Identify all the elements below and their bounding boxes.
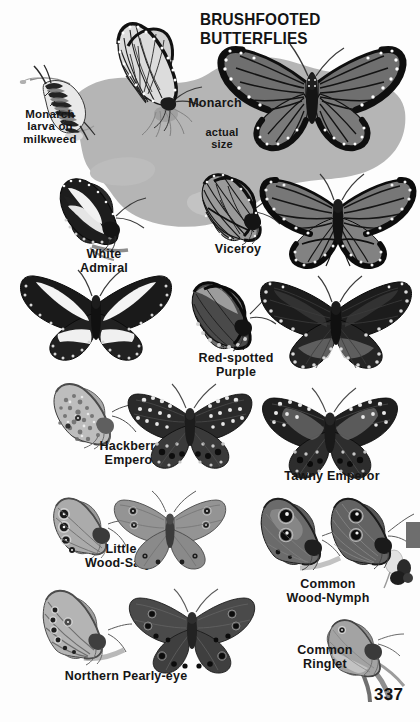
specimen-monarch-underside	[78, 18, 204, 144]
field-guide-page: BRUSHFOOTED BUTTERFLIES	[0, 0, 420, 722]
label-northern-pearly-eye: Northern Pearly-eye	[46, 670, 206, 684]
page-edge-tab-marker	[406, 522, 420, 548]
label-common-ringlet: Common Ringlet	[274, 644, 376, 671]
label-common-wood-nymph: Common Wood-Nymph	[270, 578, 386, 605]
label-actual-size: actual size	[186, 127, 258, 151]
label-tawny-emperor: Tawny Emperor	[272, 470, 392, 484]
specimen-viceroy-spread	[258, 168, 418, 274]
specimen-common-wood-nymph-b	[318, 496, 420, 588]
label-viceroy: Viceroy	[200, 243, 276, 257]
specimen-little-wood-satyr-spread	[112, 490, 228, 574]
label-red-spotted-purple: Red-spotted Purple	[183, 352, 289, 379]
specimen-northern-pearly-eye-spread	[126, 588, 258, 676]
specimen-hackberry-emperor-spread	[126, 382, 254, 478]
specimen-white-admiral-spread	[16, 266, 176, 366]
page-number: 337	[374, 685, 403, 705]
label-monarch: Monarch	[175, 97, 255, 111]
specimen-northern-pearly-eye-side	[22, 586, 134, 674]
